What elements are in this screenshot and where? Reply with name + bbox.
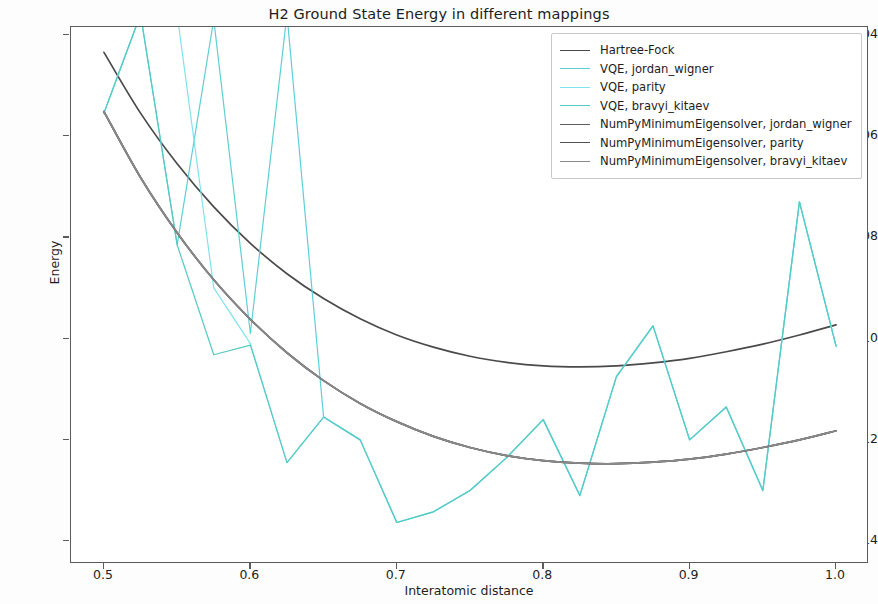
x-tick-label: 0.7: [366, 567, 426, 582]
legend-label: VQE, jordan_wigner: [600, 62, 714, 76]
legend-label: NumPyMinimumEigensolver, jordan_wigner: [600, 117, 852, 131]
legend-color-swatch: [560, 161, 590, 162]
legend-color-swatch: [560, 105, 590, 106]
y-axis-label: Energy: [47, 203, 62, 323]
legend-item[interactable]: VQE, parity: [560, 78, 852, 97]
y-tick-mark: [63, 135, 69, 136]
y-tick-mark: [63, 236, 69, 237]
legend-item[interactable]: NumPyMinimumEigensolver, parity: [560, 134, 852, 153]
y-tick-mark: [63, 540, 69, 541]
legend-label: VQE, bravyi_kitaev: [600, 99, 709, 113]
legend-color-swatch: [560, 50, 590, 51]
legend-label: VQE, parity: [600, 80, 666, 94]
legend-color-swatch: [560, 68, 590, 69]
x-axis-label: Interatomic distance: [70, 583, 868, 598]
legend-label: NumPyMinimumEigensolver, bravyi_kitaev: [600, 154, 847, 168]
chart-title: H2 Ground State Energy in different mapp…: [0, 6, 878, 22]
legend-item[interactable]: NumPyMinimumEigensolver, jordan_wigner: [560, 115, 852, 134]
legend-color-swatch: [560, 142, 590, 143]
x-tick-label: 1.0: [805, 567, 865, 582]
x-tick-label: 0.9: [659, 567, 719, 582]
legend-item[interactable]: Hartree-Fock: [560, 41, 852, 60]
legend-color-swatch: [560, 124, 590, 125]
legend-item[interactable]: NumPyMinimumEigensolver, bravyi_kitaev: [560, 152, 852, 171]
legend-color-swatch: [560, 87, 590, 88]
legend-item[interactable]: VQE, jordan_wigner: [560, 60, 852, 79]
y-tick-mark: [63, 34, 69, 35]
y-tick-mark: [63, 439, 69, 440]
x-tick-label: 0.8: [512, 567, 572, 582]
chart-figure: H2 Ground State Energy in different mapp…: [0, 0, 878, 604]
legend-item[interactable]: VQE, bravyi_kitaev: [560, 97, 852, 116]
chart-legend: Hartree-FockVQE, jordan_wignerVQE, parit…: [551, 33, 862, 179]
x-tick-label: 0.6: [219, 567, 279, 582]
legend-label: Hartree-Fock: [600, 43, 675, 57]
x-tick-label: 0.5: [73, 567, 133, 582]
y-tick-mark: [63, 338, 69, 339]
legend-label: NumPyMinimumEigensolver, parity: [600, 136, 804, 150]
